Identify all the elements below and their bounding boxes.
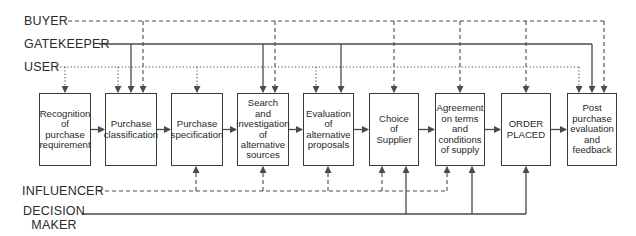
stage-label-line: Supplier <box>376 135 411 145</box>
stage-label: ChoiceofSupplier <box>375 114 412 145</box>
role-label-buyer: BUYER <box>24 14 68 28</box>
stage-label: Evaluationofalternativeproposals <box>305 109 352 151</box>
role-label-influencer: INFLUENCER <box>22 184 104 198</box>
buying-center-diagram: BUYER GATEKEEPER USER INFLUENCER DECISIO… <box>0 0 636 236</box>
stage-label-line: ORDER <box>507 119 545 129</box>
role-label-user: USER <box>24 60 60 74</box>
stage-box-s2: Purchaseclassification <box>105 93 157 166</box>
stage-label: Agreementon termsandconditionsof supply <box>436 103 485 155</box>
stage-label-line: sources <box>236 150 289 160</box>
stage-box-s8: ORDERPLACED <box>501 93 551 166</box>
stage-label-line: requirement <box>39 140 90 150</box>
stage-box-s9: Postpurchaseevaluationandfeedback <box>567 93 617 166</box>
stage-label-line: PLACED <box>507 130 545 140</box>
role-label-decision-maker-line2: MAKER <box>23 218 85 232</box>
stage-label: Postpurchaseevaluationandfeedback <box>569 103 615 155</box>
role-label-decision-maker: DECISION MAKER <box>23 204 85 232</box>
stage-label: Recognitionofpurchaserequirement <box>38 109 91 151</box>
stage-box-s4: Searchandinvestigationofalternativesourc… <box>237 93 289 166</box>
stage-label-line: of supply <box>437 145 484 155</box>
stage-label-line: investigation <box>236 119 289 129</box>
stage-label: Purchasespecification <box>170 119 225 140</box>
stage-label-line: classification <box>104 130 158 140</box>
role-label-gatekeeper: GATEKEEPER <box>24 37 110 51</box>
stage-label-line: Purchase <box>171 119 224 129</box>
stage-box-s3: Purchasespecification <box>171 93 223 166</box>
stage-label: Searchandinvestigationofalternativesourc… <box>235 98 290 160</box>
stage-label-line: of <box>306 119 351 129</box>
stage-box-s1: Recognitionofpurchaserequirement <box>39 93 91 166</box>
role-label-decision-maker-line1: DECISION <box>23 204 85 218</box>
stage-label-line: Purchase <box>104 119 158 129</box>
stage-label: Purchaseclassification <box>103 119 159 140</box>
stage-label: ORDERPLACED <box>506 119 546 140</box>
stage-box-s6: ChoiceofSupplier <box>369 93 419 166</box>
stage-label-line: of <box>39 119 90 129</box>
stage-box-s7: Agreementon termsandconditionsof supply <box>435 93 485 166</box>
stage-label-line: feedback <box>570 145 614 155</box>
stage-box-s5: Evaluationofalternativeproposals <box>303 93 354 166</box>
stage-label-line: specification <box>171 130 224 140</box>
stage-label-line: proposals <box>306 140 351 150</box>
